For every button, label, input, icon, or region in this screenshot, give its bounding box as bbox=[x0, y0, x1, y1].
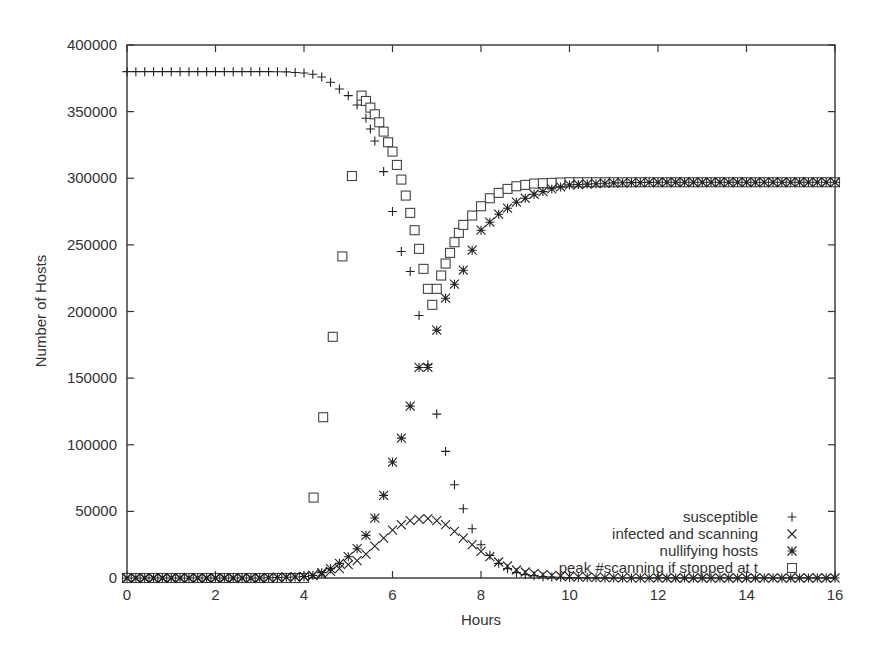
cross-marker bbox=[432, 516, 441, 525]
square-marker bbox=[788, 564, 797, 573]
square-marker bbox=[459, 220, 468, 229]
square-marker bbox=[428, 300, 437, 309]
square-marker bbox=[530, 179, 539, 188]
plus-marker bbox=[361, 114, 370, 123]
plus-marker bbox=[547, 572, 556, 581]
star-marker bbox=[494, 210, 503, 219]
x-tick-label: 6 bbox=[388, 586, 396, 603]
star-marker bbox=[379, 491, 388, 500]
square-marker bbox=[347, 172, 356, 181]
star-marker bbox=[760, 178, 769, 187]
cross-marker bbox=[406, 516, 415, 525]
square-marker bbox=[375, 118, 384, 127]
x-tick-label: 2 bbox=[211, 586, 219, 603]
star-marker bbox=[583, 180, 592, 189]
plus-marker bbox=[184, 67, 193, 76]
plus-marker bbox=[459, 504, 468, 513]
plus-marker bbox=[300, 68, 309, 77]
plus-marker bbox=[441, 447, 450, 456]
plus-marker bbox=[432, 410, 441, 419]
plus-marker bbox=[512, 568, 521, 577]
plus-marker bbox=[397, 247, 406, 256]
square-marker bbox=[392, 160, 401, 169]
star-marker bbox=[459, 266, 468, 275]
legend: susceptibleinfected and scanningnullifyi… bbox=[559, 508, 797, 576]
cross-marker bbox=[379, 534, 388, 543]
star-marker bbox=[441, 294, 450, 303]
plus-marker bbox=[326, 78, 335, 87]
star-marker bbox=[397, 434, 406, 443]
x-tick-label: 14 bbox=[738, 586, 755, 603]
plus-marker bbox=[366, 124, 375, 133]
star-marker bbox=[795, 178, 804, 187]
star-marker bbox=[671, 178, 680, 187]
square-marker bbox=[415, 244, 424, 253]
plus-marker bbox=[229, 67, 238, 76]
plus-marker bbox=[220, 67, 229, 76]
star-marker bbox=[654, 178, 663, 187]
plus-marker bbox=[406, 267, 415, 276]
star-marker bbox=[804, 178, 813, 187]
star-marker bbox=[556, 182, 565, 191]
square-marker bbox=[419, 264, 428, 273]
star-marker bbox=[477, 226, 486, 235]
plus-marker bbox=[255, 67, 264, 76]
star-marker bbox=[361, 531, 370, 540]
plus-marker bbox=[494, 559, 503, 568]
cross-marker bbox=[450, 527, 459, 536]
plus-marker bbox=[140, 67, 149, 76]
plus-marker bbox=[246, 67, 255, 76]
y-tick-label: 100000 bbox=[67, 436, 117, 453]
star-marker bbox=[468, 246, 477, 255]
plus-marker bbox=[503, 564, 512, 573]
plus-marker bbox=[211, 67, 220, 76]
star-marker bbox=[317, 568, 326, 577]
square-marker bbox=[432, 284, 441, 293]
cross-marker bbox=[397, 520, 406, 529]
plus-marker bbox=[273, 67, 282, 76]
plus-marker bbox=[450, 480, 459, 489]
star-marker bbox=[627, 178, 636, 187]
square-marker bbox=[503, 184, 512, 193]
star-marker bbox=[565, 180, 574, 189]
square-marker bbox=[512, 182, 521, 191]
plus-marker bbox=[415, 311, 424, 320]
star-marker bbox=[769, 178, 778, 187]
y-tick-label: 400000 bbox=[67, 36, 117, 53]
star-marker bbox=[592, 179, 601, 188]
plus-marker bbox=[538, 572, 547, 581]
star-marker bbox=[547, 184, 556, 193]
star-marker bbox=[698, 178, 707, 187]
square-marker bbox=[521, 180, 530, 189]
square-marker bbox=[485, 194, 494, 203]
y-tick-label: 350000 bbox=[67, 103, 117, 120]
star-marker bbox=[344, 552, 353, 561]
legend-label: peak #scanning if stopped at t bbox=[559, 559, 759, 576]
x-tick-label: 10 bbox=[561, 586, 578, 603]
cross-marker bbox=[344, 560, 353, 569]
plus-marker bbox=[468, 524, 477, 533]
cross-marker bbox=[788, 530, 797, 539]
square-marker bbox=[446, 248, 455, 257]
cross-marker bbox=[423, 514, 432, 523]
plus-marker bbox=[167, 67, 176, 76]
star-marker bbox=[786, 178, 795, 187]
legend-label: infected and scanning bbox=[612, 525, 758, 542]
star-marker bbox=[530, 190, 539, 199]
square-marker bbox=[450, 238, 459, 247]
y-axis: 0500001000001500002000002500003000003500… bbox=[67, 36, 835, 586]
star-marker bbox=[353, 544, 362, 553]
star-marker bbox=[538, 187, 547, 196]
star-marker bbox=[370, 514, 379, 523]
square-marker bbox=[388, 147, 397, 156]
cross-marker bbox=[361, 550, 370, 559]
legend-label: susceptible bbox=[683, 508, 758, 525]
star-marker bbox=[521, 194, 530, 203]
chart: 0500001000001500002000002500003000003500… bbox=[0, 0, 872, 655]
star-marker bbox=[662, 178, 671, 187]
square-marker bbox=[477, 202, 486, 211]
cross-marker bbox=[353, 556, 362, 565]
square-marker bbox=[328, 332, 337, 341]
plus-marker bbox=[264, 67, 273, 76]
star-marker bbox=[813, 178, 822, 187]
